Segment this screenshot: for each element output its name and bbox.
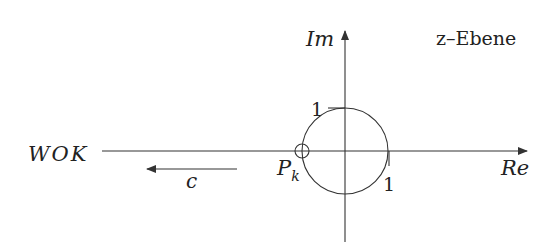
pole-label: Pk xyxy=(276,156,300,184)
pole-label-sub: k xyxy=(291,168,299,184)
imag-axis-label: Im xyxy=(305,27,334,51)
pole-label-main: P xyxy=(276,156,292,180)
direction-label: c xyxy=(186,169,197,193)
real-axis-label: Re xyxy=(500,156,529,180)
imag-unit-label: 1 xyxy=(311,98,323,120)
wok-label: WOK xyxy=(28,142,89,166)
real-unit-label: 1 xyxy=(383,173,395,195)
plane-title: z–Ebene xyxy=(436,27,516,49)
z-plane-diagram: Im Re z–Ebene WOK 1 1 c Pk xyxy=(0,0,558,249)
